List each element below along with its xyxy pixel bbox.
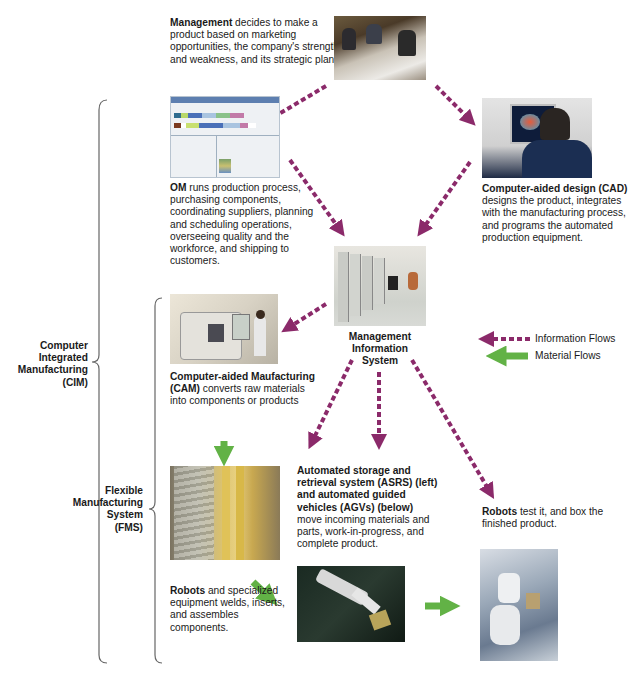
om-software-screenshot — [170, 96, 280, 178]
robot-gripper-photo — [297, 566, 405, 642]
fms-label: Flexible Manufacturing System (FMS) — [0, 485, 143, 534]
robots-test-description: Robots test it, and box the finished pro… — [482, 506, 622, 530]
cnc-machine-photo — [170, 294, 278, 364]
legend-material-flows: Material Flows — [535, 350, 601, 362]
fms-bracket — [149, 298, 162, 663]
cim-label: Computer Integrated Manufacturing (CIM) — [0, 340, 88, 389]
cim-bracket — [92, 100, 107, 663]
cam-description: Computer-aided Maufacturing (CAM) conver… — [170, 371, 320, 408]
asrs-agv-description: Automated storage and retrieval system (… — [297, 465, 439, 550]
cad-description: Computer-aided design (CAD) designs the … — [482, 183, 640, 244]
info-flow-mgmt-to-cad — [436, 86, 470, 120]
management-meeting-photo — [334, 16, 426, 80]
info-flow-cad-to-mis — [422, 162, 470, 230]
legend-information-flows: Information Flows — [535, 333, 615, 345]
cad-workstation-photo — [482, 98, 592, 178]
mis-label: Management Information System — [330, 331, 430, 368]
management-description: Management decides to make a product bas… — [170, 17, 352, 66]
robot-arm-photo — [480, 549, 558, 661]
om-description: OM runs production process, purchasing c… — [170, 182, 320, 267]
info-flow-mis-to-cam — [288, 304, 326, 328]
server-room-photo — [334, 246, 426, 326]
asrs-warehouse-photo — [170, 466, 280, 560]
robots-assemble-description: Robots and specialized equipment welds, … — [170, 585, 290, 634]
